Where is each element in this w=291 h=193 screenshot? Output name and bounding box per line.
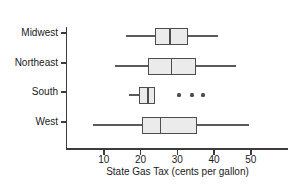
box-midwest — [155, 28, 188, 45]
whisker-low-midwest — [126, 35, 155, 37]
y-axis-line — [66, 27, 68, 148]
y-axis-label-northeast: Northeast — [0, 56, 58, 69]
y-axis-label-south: South — [0, 85, 58, 98]
y-tick-west — [61, 121, 66, 123]
x-tick-label-50: 50 — [236, 154, 266, 166]
whisker-high-west — [197, 124, 248, 126]
boxplot-canvas: MidwestNortheastSouthWest1020304050 — [0, 0, 291, 193]
boxplot-figure: MidwestNortheastSouthWest1020304050 Stat… — [0, 0, 291, 193]
whisker-low-northeast — [115, 65, 148, 67]
median-northeast — [171, 58, 173, 75]
whisker-low-west — [93, 124, 143, 126]
box-west — [142, 117, 197, 134]
x-axis-title: State Gas Tax (cents per gallon) — [67, 166, 288, 177]
whisker-high-northeast — [196, 65, 236, 67]
y-axis-label-west: West — [0, 115, 58, 128]
x-tick-label-20: 20 — [126, 154, 156, 166]
outlier-south-2 — [201, 93, 205, 97]
median-west — [160, 117, 162, 134]
whisker-high-midwest — [188, 35, 217, 37]
y-axis-label-midwest: Midwest — [0, 26, 58, 39]
y-tick-midwest — [61, 32, 66, 34]
outlier-south-1 — [190, 93, 194, 97]
x-tick-label-40: 40 — [199, 154, 229, 166]
y-tick-northeast — [61, 62, 66, 64]
median-south — [147, 87, 149, 104]
whisker-low-south — [129, 94, 138, 96]
x-tick-label-10: 10 — [89, 154, 119, 166]
outlier-south-0 — [177, 93, 181, 97]
median-midwest — [169, 28, 171, 45]
y-tick-south — [61, 91, 66, 93]
x-tick-label-30: 30 — [162, 154, 192, 166]
